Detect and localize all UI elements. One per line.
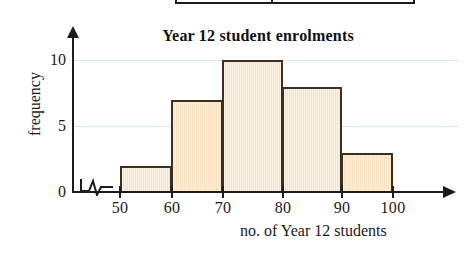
chart-title: Year 12 student enrolments [128, 27, 388, 45]
x-tick-label-90: 90 [322, 199, 362, 217]
x-tick-label-70: 70 [203, 199, 243, 217]
histogram-chart: 50 60 70 80 90 100 0 5 10 Year 12 studen… [0, 0, 465, 265]
axis-break-zigzag-icon [80, 178, 114, 196]
chart-page: 50 60 70 80 90 100 0 5 10 Year 12 studen… [0, 0, 465, 265]
x-tick-60 [171, 186, 173, 198]
x-tick-label-50: 50 [100, 199, 140, 217]
y-axis-title: frequency [26, 49, 44, 159]
x-tick-90 [341, 186, 343, 198]
x-tick-label-100: 100 [373, 199, 413, 217]
x-tick-100 [392, 186, 394, 198]
y-axis-arrow-icon [67, 26, 79, 38]
bar-80-90 [282, 87, 342, 193]
x-axis-arrow-icon [443, 186, 456, 198]
y-axis-line [72, 36, 74, 193]
bar-60-70 [171, 100, 223, 193]
x-tick-label-60: 60 [152, 199, 192, 217]
bar-90-100 [341, 153, 393, 193]
x-tick-70 [222, 186, 224, 198]
bar-50-60 [120, 166, 172, 193]
bar-70-80 [222, 60, 283, 193]
y-tick-label-0: 0 [36, 183, 66, 201]
x-tick-80 [282, 186, 284, 198]
x-tick-label-80: 80 [263, 199, 303, 217]
x-axis-title: no. of Year 12 students [240, 222, 460, 240]
x-axis-line [72, 191, 445, 193]
x-tick-50 [119, 186, 121, 198]
